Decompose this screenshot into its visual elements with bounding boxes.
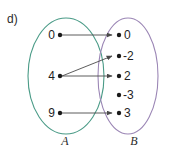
set-a-dot-0 bbox=[58, 33, 62, 37]
set-b-dot-0 bbox=[117, 33, 121, 37]
set-b-element-label-2: 2 bbox=[124, 70, 131, 82]
mapping-svg bbox=[0, 0, 172, 154]
set-b-element-label-1: -2 bbox=[123, 50, 134, 62]
set-a-element-label-1: 4 bbox=[48, 70, 55, 82]
set-a-name-label: A bbox=[55, 134, 75, 149]
set-a-dot-2 bbox=[58, 111, 62, 115]
set-b-name-label: B bbox=[124, 134, 144, 149]
set-b-element-label-3: -3 bbox=[123, 89, 134, 101]
set-b-dot-1 bbox=[117, 54, 121, 58]
set-b-dot-4 bbox=[117, 111, 121, 115]
set-b-dot-2 bbox=[117, 74, 121, 78]
set-a-dot-1 bbox=[58, 74, 62, 78]
set-a-element-label-2: 9 bbox=[48, 107, 55, 119]
set-a-element-label-0: 0 bbox=[48, 29, 55, 41]
set-b-dot-3 bbox=[117, 93, 121, 97]
set-b-element-label-4: 3 bbox=[124, 107, 131, 119]
set-b-element-label-0: 0 bbox=[124, 29, 131, 41]
set-mapping-diagram: d) 0 4 9 0 -2 2 -3 3 A B bbox=[0, 0, 172, 154]
